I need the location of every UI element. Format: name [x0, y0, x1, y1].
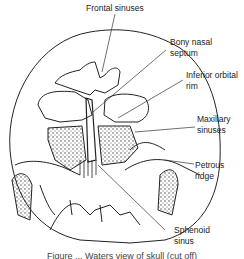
label-petrous-ridge-line2: ridge — [195, 171, 214, 181]
leader-inferior-orbital-rim — [118, 80, 183, 118]
label-bony-nasal-septum-line1: Bony nasal — [170, 37, 212, 47]
label-petrous-ridge-line1: Petrous — [195, 160, 224, 170]
label-sphenoid-sinus-line1: Sphenoid — [174, 225, 210, 235]
nasal-septum — [86, 98, 96, 162]
leader-maxillary-sinuses — [135, 127, 195, 132]
left-orbit — [38, 91, 92, 122]
label-inferior-orbital-rim-line2: rim — [186, 81, 198, 91]
leader-sphenoid-sinus — [98, 165, 165, 230]
right-orbit — [104, 94, 149, 122]
label-inferior-orbital-rim-line1: Inferior orbital — [186, 70, 238, 80]
left-petrous-region — [12, 174, 32, 220]
label-maxillary-sinuses-line1: Maxillary — [197, 114, 231, 124]
figure-caption-cutoff: Figure ... Waters view of skull (cut off… — [0, 251, 244, 259]
label-bony-nasal-septum-line2: septum — [170, 48, 198, 58]
label-frontal-sinuses: Frontal sinuses — [86, 3, 144, 13]
right-petrous-region — [158, 170, 178, 215]
leader-petrous-ridge — [165, 160, 194, 164]
frontal-sinuses — [55, 62, 120, 95]
right-maxillary-sinus — [98, 126, 138, 165]
leader-frontal-sinuses — [102, 14, 115, 72]
leader-bony-nasal-septum — [93, 50, 166, 112]
label-maxillary-sinuses-line2: sinuses — [197, 125, 226, 135]
label-sphenoid-sinus-line2: sinus — [174, 236, 194, 246]
